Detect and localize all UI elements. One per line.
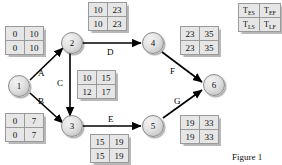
node-2-label: 2: [70, 38, 75, 48]
cell-ls: 10: [89, 17, 108, 31]
activity-f-times-table: 23 35 23 35: [180, 26, 219, 55]
table-row: TES TEF: [239, 4, 281, 18]
table-row: 12 17: [78, 85, 116, 99]
activity-g-times-table: 19 33 19 33: [180, 115, 219, 144]
figure-canvas: 1 2 3 4 5 6 A B C D E F G 0 10 0 10 10 2…: [0, 0, 282, 165]
edge-label-f: F: [170, 66, 175, 76]
cell-lf: 19: [110, 149, 129, 163]
cell-ef: 19: [110, 135, 129, 149]
cell-ef: 33: [200, 116, 219, 130]
edge-label-c: C: [57, 78, 63, 88]
edge-label-e: E: [108, 114, 114, 124]
cell-es: 0: [6, 27, 25, 41]
edge-label-b: B: [38, 96, 44, 106]
cell-ef: 23: [108, 3, 127, 17]
node-3[interactable]: 3: [61, 115, 83, 137]
node-5-label: 5: [151, 121, 156, 131]
cell-es: 19: [181, 116, 200, 130]
node-3-label: 3: [70, 121, 75, 131]
legend-tls-sub: LS: [248, 24, 255, 30]
table-row: 0 7: [6, 114, 44, 128]
cell-ef: 7: [25, 114, 44, 128]
cell-lf: 33: [200, 130, 219, 144]
cell-ls: 19: [181, 130, 200, 144]
table-row: 23 35: [181, 41, 219, 55]
table-row: 10 15: [78, 71, 116, 85]
legend-tef-sub: EF: [269, 10, 276, 16]
node-4-label: 4: [151, 38, 156, 48]
node-5[interactable]: 5: [142, 115, 164, 137]
cell-ls: 0: [6, 128, 25, 142]
node-6[interactable]: 6: [203, 74, 225, 96]
legend-cell-tes: TES: [239, 4, 260, 18]
cell-ls: 12: [78, 85, 97, 99]
table-row: 15 19: [91, 135, 129, 149]
activity-c-times-table: 10 15 12 17: [77, 70, 116, 99]
table-row: 15 19: [91, 149, 129, 163]
cell-es: 15: [91, 135, 110, 149]
table-row: 0 10: [6, 27, 44, 41]
cell-es: 0: [6, 114, 25, 128]
table-row: 10 23: [89, 3, 127, 17]
legend-cell-tlf: TLF: [260, 18, 281, 32]
edge-label-a: A: [38, 68, 45, 78]
cell-ef: 35: [200, 27, 219, 41]
table-row: 23 35: [181, 27, 219, 41]
node-2[interactable]: 2: [61, 32, 83, 54]
edge-label-g: G: [174, 96, 181, 106]
legend-tlf-sub: LF: [269, 24, 276, 30]
cell-ef: 10: [25, 27, 44, 41]
table-row: 19 33: [181, 116, 219, 130]
activity-a-times-table: 0 10 0 10: [5, 26, 44, 55]
table-row: 19 33: [181, 130, 219, 144]
time-notation-legend: TES TEF TLS TLF: [238, 3, 281, 32]
cell-ls: 23: [181, 41, 200, 55]
cell-lf: 17: [97, 85, 116, 99]
activity-d-times-table: 10 23 10 23: [88, 2, 127, 31]
cell-es: 10: [89, 3, 108, 17]
cell-lf: 23: [108, 17, 127, 31]
cell-es: 23: [181, 27, 200, 41]
node-4[interactable]: 4: [142, 32, 164, 54]
table-row: 0 7: [6, 128, 44, 142]
table-row: 0 10: [6, 41, 44, 55]
table-row: 10 23: [89, 17, 127, 31]
legend-cell-tef: TEF: [260, 4, 281, 18]
edge-line-g: [163, 90, 202, 118]
legend-tes-sub: ES: [248, 10, 255, 16]
node-1-label: 1: [17, 81, 22, 91]
activity-b-times-table: 0 7 0 7: [5, 113, 44, 142]
edge-label-d: D: [107, 47, 114, 57]
cell-lf: 35: [200, 41, 219, 55]
cell-es: 10: [78, 71, 97, 85]
figure-caption: Figure 1: [232, 152, 262, 162]
node-6-label: 6: [212, 80, 217, 90]
activity-e-times-table: 15 19 15 19: [90, 134, 129, 163]
edge-line-f: [162, 52, 202, 82]
cell-ls: 15: [91, 149, 110, 163]
legend-cell-tls: TLS: [239, 18, 260, 32]
cell-lf: 7: [25, 128, 44, 142]
cell-ef: 15: [97, 71, 116, 85]
table-row: TLS TLF: [239, 18, 281, 32]
cell-lf: 10: [25, 41, 44, 55]
node-1[interactable]: 1: [8, 75, 30, 97]
cell-ls: 0: [6, 41, 25, 55]
